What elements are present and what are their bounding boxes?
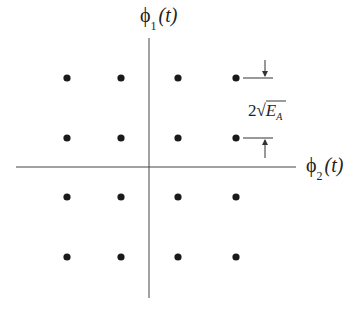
arrow-up-head [262,139,268,145]
constellation-point [232,134,239,141]
horizontal-axis-label: ϕ2(t) [306,154,344,183]
constellation-point [174,74,181,81]
constellation-point [117,74,124,81]
constellation-point [63,74,70,81]
constellation-point [174,253,181,260]
spacing-label: 2√EA [248,101,283,122]
constellation-point [232,193,239,200]
constellation-point [117,193,124,200]
constellation-point [232,74,239,81]
constellation-point [174,134,181,141]
constellation-point [232,253,239,260]
constellation-point [117,253,124,260]
constellation-point [63,193,70,200]
constellation-point [63,134,70,141]
constellation-point [174,193,181,200]
arrow-down-head [262,71,268,77]
vertical-axis-label: ϕ1(t) [140,4,178,33]
constellation-point [63,253,70,260]
constellation-point [117,134,124,141]
constellation-diagram: 2√EA ϕ1(t) ϕ2(t) [0,0,363,312]
